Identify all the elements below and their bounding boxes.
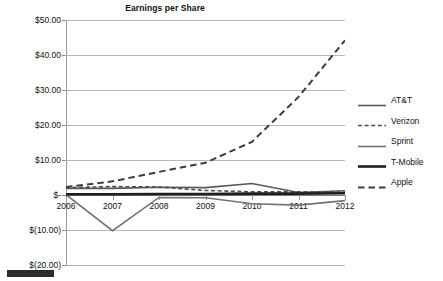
legend-label: AT&T [391,95,412,105]
y-axis-label: $50.00 [35,15,61,25]
series-line-sprint [66,195,345,231]
legend-item-sprint[interactable]: Sprint [358,136,424,146]
legend-swatch-icon [358,157,386,166]
y-axis-label: $(20.00) [29,260,61,270]
plot-area: $50.00$40.00$30.00$20.00$10.00$-$(10.00)… [66,20,345,265]
y-tick-mark [62,265,66,266]
legend-item-at-t[interactable]: AT&T [358,95,424,105]
legend-label: Apple [391,177,413,187]
legend-item-verizon[interactable]: Verizon [358,116,424,126]
legend-label: Sprint [391,136,413,146]
chart-container: Earnings per Share $50.00$40.00$30.00$20… [0,0,443,281]
x-tick-mark [345,195,346,200]
y-axis-label: $20.00 [35,120,61,130]
y-axis-label: $- [53,190,61,200]
y-axis-label: $40.00 [35,50,61,60]
legend-swatch-icon [358,116,386,125]
corner-mark [7,270,54,277]
legend-swatch-icon [358,178,386,187]
legend-label: T-Mobile [391,157,424,167]
legend-label: Verizon [391,116,419,126]
series-line-apple [66,40,345,187]
y-axis-label: $30.00 [35,85,61,95]
chart-title: Earnings per Share [0,3,330,13]
legend-swatch-icon [358,96,386,105]
legend-item-apple[interactable]: Apple [358,177,424,187]
legend-swatch-icon [358,137,386,146]
y-axis-label: $10.00 [35,155,61,165]
chart-legend: AT&TVerizonSprintT-MobileApple [358,95,424,187]
gridline [66,265,345,266]
series-lines [66,20,345,265]
legend-item-t-mobile[interactable]: T-Mobile [358,157,424,167]
y-axis-label: $(10.00) [29,225,61,235]
series-line-t-mobile [66,193,345,194]
